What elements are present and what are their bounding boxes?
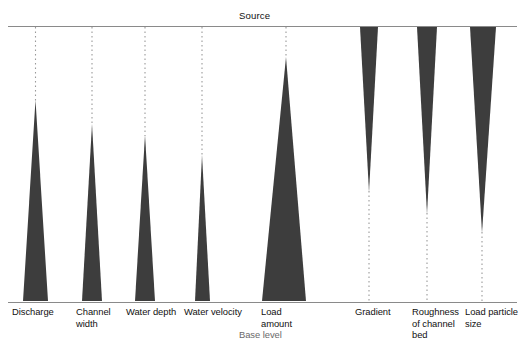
wedge-discharge: [23, 100, 48, 301]
label-water-depth: Water depth: [126, 306, 176, 318]
base-level-label: Base level: [239, 329, 282, 340]
wedge-gradient: [360, 27, 378, 192]
river-long-profile-variables-diagram: Source Base level DischargeChannel width…: [0, 0, 525, 343]
label-load-amount: Load amount: [261, 306, 292, 329]
wedge-load-amount: [262, 57, 306, 301]
label-water-velocity: Water velocity: [184, 306, 242, 318]
wedge-load-particle-size: [470, 27, 496, 233]
wedge-channel-width: [82, 124, 102, 301]
label-roughness-of-channel-bed: Roughness of channel bed: [412, 306, 459, 341]
source-label: Source: [239, 10, 270, 21]
wedge-water-velocity: [195, 155, 210, 301]
wedge-group: [23, 27, 496, 301]
label-discharge: Discharge: [12, 306, 54, 318]
label-load-particle-size: Load particle size: [465, 306, 518, 329]
wedge-roughness-of-channel-bed: [417, 27, 437, 214]
wedge-water-depth: [135, 135, 155, 301]
label-gradient: Gradient: [355, 306, 391, 318]
diagram-canvas: [0, 0, 525, 343]
dotted-axis-group: [36, 27, 483, 302]
label-channel-width: Channel width: [76, 306, 111, 329]
